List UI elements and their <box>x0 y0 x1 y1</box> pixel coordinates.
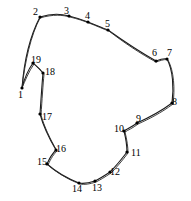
vertex-label-11: 11 <box>131 148 141 158</box>
vertex-label-9: 9 <box>136 114 141 124</box>
vertex-label-18: 18 <box>45 67 55 77</box>
vertex-label-15: 15 <box>37 157 47 167</box>
vertex-label-14: 14 <box>72 184 82 194</box>
vertex-label-17: 17 <box>42 112 52 122</box>
vertex-label-19: 19 <box>31 55 41 65</box>
vertex-label-13: 13 <box>92 183 102 193</box>
vertex-marker-2[interactable] <box>38 15 41 18</box>
vertex-label-1: 1 <box>18 90 23 100</box>
vertex-marker-6[interactable] <box>154 59 157 62</box>
vertex-label-2: 2 <box>33 7 38 17</box>
contour-canvas <box>0 0 191 201</box>
vertex-label-4: 4 <box>85 11 90 21</box>
vertex-label-7: 7 <box>167 48 172 58</box>
vertex-label-8: 8 <box>172 97 177 107</box>
vertex-label-10: 10 <box>114 124 124 134</box>
vertex-label-5: 5 <box>105 19 110 29</box>
vertex-label-3: 3 <box>64 6 69 16</box>
vertex-label-6: 6 <box>152 48 157 58</box>
contour-figure: 12345678910111213141516171819 <box>0 0 191 201</box>
vertex-label-16: 16 <box>56 144 66 154</box>
figure-background <box>0 0 191 201</box>
vertex-marker-11[interactable] <box>125 150 128 153</box>
vertex-label-12: 12 <box>110 167 120 177</box>
